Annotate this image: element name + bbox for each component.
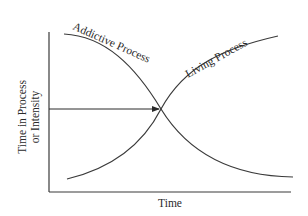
addictive-process-curve [64,34,293,177]
addictive-process-label: Addictive Process [71,20,153,65]
y-axis-label-line2: or Intensity [29,90,42,143]
process-diagram: Addictive Process Living Process Time in… [0,0,308,216]
x-axis-label: Time [158,197,182,209]
y-axis-label-line1: Time in Process [16,80,28,154]
living-process-label: Living Process [183,36,250,81]
living-process-curve [67,36,278,179]
